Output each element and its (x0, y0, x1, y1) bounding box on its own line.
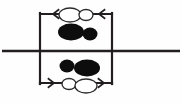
lower-filled-ellipse-large (74, 60, 100, 77)
upper-open-ellipse-small (79, 10, 93, 21)
upper-open-ellipse-large (59, 8, 81, 22)
lower-open-ellipse-large (75, 79, 97, 93)
lower-filled-ellipse-small (60, 60, 75, 73)
upper-filled-ellipse-small (83, 28, 98, 41)
upper-filled-ellipse-large (58, 24, 84, 41)
lower-open-ellipse-small (62, 79, 76, 90)
upper-open-ellipse-pair (59, 8, 93, 22)
diagram-figure (0, 0, 182, 104)
diagram-canvas (0, 0, 182, 104)
